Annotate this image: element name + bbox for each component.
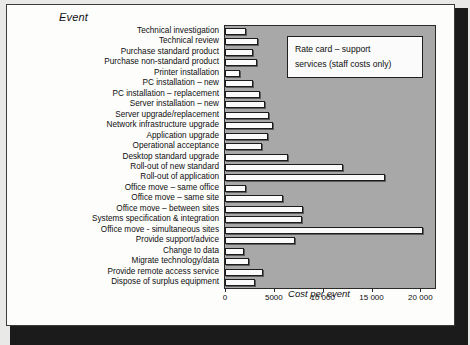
bar — [225, 91, 260, 98]
category-label: Technical investigation — [18, 26, 219, 35]
category-label: Provide support/advice — [18, 235, 219, 244]
category-label: Server installation – new — [18, 99, 219, 108]
bar — [225, 28, 246, 35]
bar — [225, 70, 240, 77]
bar — [225, 112, 269, 119]
bar — [225, 248, 244, 255]
bar — [225, 206, 303, 213]
bar — [225, 154, 288, 161]
category-label: Provide remote access service — [18, 267, 219, 276]
bar — [225, 122, 273, 129]
bar — [225, 185, 246, 192]
page-shadow-right — [455, 8, 468, 345]
page-shadow-bottom — [10, 325, 468, 345]
bar — [225, 133, 268, 140]
category-label: Application upgrade — [18, 131, 219, 140]
bar — [225, 59, 257, 66]
category-label: PC installation – new — [18, 78, 219, 87]
category-label: PC installation – replacement — [18, 89, 219, 98]
chart-card: Event Technical investigationTechnical r… — [6, 4, 455, 326]
category-label: Dispose of surplus equipment — [18, 277, 219, 286]
bar — [225, 49, 253, 56]
category-label: Roll-out of new standard — [18, 162, 219, 171]
bar — [225, 279, 255, 286]
bar — [225, 195, 283, 202]
category-label: Operational acceptance — [18, 141, 219, 150]
category-label: Server upgrade/replacement — [18, 110, 219, 119]
category-label: Purchase standard product — [18, 47, 219, 56]
bar — [225, 38, 258, 45]
category-label: Office move – between sites — [18, 204, 219, 213]
category-labels: Technical investigationTechnical reviewP… — [18, 25, 219, 289]
category-label: Technical review — [18, 36, 219, 45]
category-label: Purchase non-standard product — [18, 57, 219, 66]
category-label: Roll-out of application — [18, 172, 219, 181]
bar — [225, 237, 295, 244]
y-axis-title: Event — [59, 11, 88, 23]
category-label: Change to data — [18, 246, 219, 255]
bar — [225, 143, 262, 150]
annotation-box: Rate card – support services (staff cost… — [287, 36, 423, 78]
bar — [225, 174, 385, 181]
bar — [225, 216, 302, 223]
category-label: Desktop standard upgrade — [18, 152, 219, 161]
x-axis-label: Cost per event — [213, 288, 425, 299]
category-label: Office move - simultaneous sites — [18, 225, 219, 234]
bar — [225, 258, 249, 265]
category-label: Office move – same site — [18, 193, 219, 202]
scanned-page: Event Technical investigationTechnical r… — [0, 0, 470, 345]
category-label: Network infrastructure upgrade — [18, 120, 219, 129]
bar — [225, 80, 253, 87]
bar — [225, 101, 265, 108]
annotation-line-1: Rate card – support — [295, 42, 415, 57]
plot-area: Rate card – support services (staff cost… — [224, 25, 436, 289]
plot-wrapper: Technical investigationTechnical reviewP… — [18, 25, 443, 293]
bar — [225, 164, 343, 171]
category-label: Printer installation — [18, 68, 219, 77]
category-label: Migrate technology/data — [18, 256, 219, 265]
bar — [225, 269, 263, 276]
annotation-line-2: services (staff costs only) — [295, 57, 415, 72]
bar — [225, 227, 423, 234]
category-label: Systems specification & integration — [18, 214, 219, 223]
category-label: Office move – same office — [18, 183, 219, 192]
